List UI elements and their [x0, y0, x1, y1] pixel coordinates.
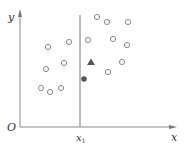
hollow-point-marker-icon [85, 37, 90, 42]
hollow-point-marker-icon [124, 42, 129, 47]
hollow-point-marker-icon [94, 14, 99, 19]
hollow-point-marker-icon [45, 44, 50, 49]
hollow-point-marker-icon [47, 89, 52, 94]
split-value-label: x1 [76, 132, 85, 144]
hollow-point-marker-icon [38, 85, 43, 90]
x-axis-arrow-icon [169, 125, 177, 129]
hollow-point-marker-icon [58, 85, 63, 90]
y-axis-arrow-icon [18, 9, 22, 17]
hollow-point-marker-icon [66, 39, 71, 44]
filled-dot-marker-icon [81, 76, 87, 82]
hollow-point-marker-icon [43, 66, 48, 71]
split-sub: 1 [82, 137, 86, 144]
triangle-marker-icon [87, 59, 95, 66]
hollow-point-marker-icon [125, 19, 130, 24]
origin-label: O [7, 121, 16, 134]
hollow-point-marker-icon [110, 36, 115, 41]
scatter-diagram: y O x x1 [0, 0, 186, 149]
y-axis-label: y [7, 11, 15, 24]
hollow-point-marker-icon [104, 19, 109, 24]
hollow-points [38, 14, 130, 94]
x-axis-label: x [171, 131, 178, 144]
hollow-point-marker-icon [119, 59, 124, 64]
hollow-point-marker-icon [61, 60, 66, 65]
hollow-point-marker-icon [105, 69, 110, 74]
